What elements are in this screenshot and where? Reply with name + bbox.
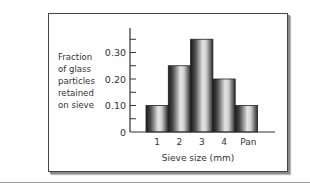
y-tick-label: 0.30 [105,47,126,58]
y-tick-label: 0 [120,127,126,138]
bar-4 [213,79,235,132]
y-axis-ticks: 00.100.200.30 [105,39,136,137]
x-tick-label: 2 [177,137,183,147]
bar-2 [168,66,190,132]
y-axis-label-line: retained [58,88,94,98]
bar-pan [235,106,257,133]
bar-1 [146,106,168,133]
x-tick-label: Pan [240,137,256,147]
y-tick-label: 0.20 [105,74,126,85]
y-axis-label-line: particles [58,76,95,86]
y-axis-label-line: of glass [58,64,92,74]
x-axis-label: Sieve size (mm) [162,153,234,163]
y-axis-label: Fractionof glassparticlesretainedon siev… [58,52,95,110]
x-axis-ticks: 1234Pan [154,137,256,147]
y-tick-label: 0.10 [105,100,126,111]
x-tick-label: 3 [199,137,205,147]
x-tick-label: 1 [154,137,160,147]
y-axis-label-line: on sieve [58,100,94,110]
bar-3 [191,39,213,132]
x-tick-label: 4 [221,137,227,147]
y-axis-label-line: Fraction [58,52,92,62]
chart: Fractionof glassparticlesretainedon siev… [0,0,310,191]
bars [146,39,258,132]
